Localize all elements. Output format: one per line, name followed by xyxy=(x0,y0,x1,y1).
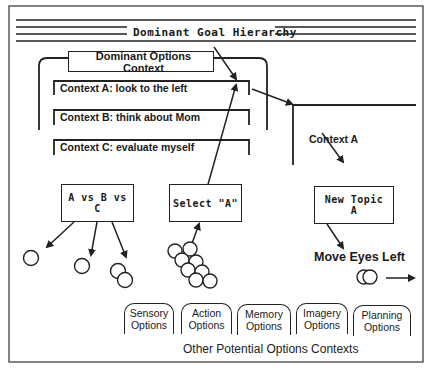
a-vs-b-vs-c-text: A vs B vs C xyxy=(62,192,133,214)
arrow-new-topic-to-move xyxy=(327,224,343,248)
a-vs-b-vs-c-box: A vs B vs C xyxy=(61,184,134,222)
select-a-box: Select "A" xyxy=(169,184,242,222)
select-a-text: Select "A" xyxy=(173,198,238,209)
tab-planning-line2: Options xyxy=(364,321,400,333)
context-c-label: Context C: evaluate myself xyxy=(60,141,194,153)
arrow-goal-to-context-a xyxy=(214,47,236,79)
new-topic-box: New Topic A xyxy=(314,186,394,224)
tab-sensory-line2: Options xyxy=(131,319,167,331)
tab-planning-line1: Planning xyxy=(362,309,403,321)
move-eyes-label: Move Eyes Left xyxy=(314,250,405,264)
tab-action-line1: Action xyxy=(192,307,221,319)
tab-sensory-options: Sensory Options xyxy=(124,303,174,334)
arrow-avsbvsc-right xyxy=(112,222,126,257)
tab-planning-options: Planning Options xyxy=(353,305,411,336)
tab-memory-line1: Memory xyxy=(245,308,283,320)
tab-imagery-options: Imagery Options xyxy=(296,303,348,334)
dominant-options-label: Dominant Options Context xyxy=(68,51,214,72)
tab-action-options: Action Options xyxy=(181,303,232,334)
tab-sensory-line1: Sensory xyxy=(130,307,169,319)
other-contexts-caption: Other Potential Options Contexts xyxy=(183,342,358,356)
arrow-avsbvsc-mid xyxy=(91,222,97,255)
context-b-label: Context B: think about Mom xyxy=(60,111,200,123)
tab-action-line2: Options xyxy=(188,319,224,331)
tab-memory-options: Memory Options xyxy=(237,304,291,335)
arrow-select-to-context-a xyxy=(207,85,236,188)
tab-memory-line2: Options xyxy=(246,320,282,332)
tab-imagery-line1: Imagery xyxy=(303,307,341,319)
arrow-context-a-to-right xyxy=(252,89,292,104)
new-topic-line2: A xyxy=(351,205,358,216)
new-topic-line1: New Topic xyxy=(325,194,384,205)
option-circles xyxy=(24,242,378,288)
context-a-label: Context A: look to the left xyxy=(60,82,187,94)
tab-imagery-line2: Options xyxy=(304,319,340,331)
goal-hierarchy-title: Dominant Goal Hierarchy xyxy=(133,26,297,39)
right-context-label: Context A xyxy=(309,133,358,145)
arrow-avsbvsc-left xyxy=(47,222,74,247)
dominant-options-text: Dominant Options Context xyxy=(74,50,213,74)
